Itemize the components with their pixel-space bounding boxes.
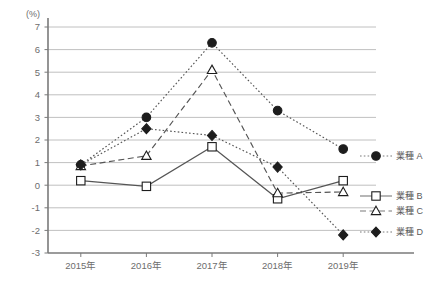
y-tick-label: 0: [35, 180, 40, 191]
y-tick-label: 2: [35, 134, 40, 145]
legend-item-c[interactable]: 業種 C: [360, 205, 424, 216]
data-point: [339, 230, 348, 240]
data-point: [339, 145, 348, 154]
x-tick-label: 2016年: [131, 260, 162, 271]
y-tick-label: -1: [32, 202, 40, 213]
y-axis-ticks: 76543210-1-2-3(%): [26, 9, 48, 258]
x-tick-label: 2019年: [328, 260, 359, 271]
series-b: [77, 143, 348, 203]
data-point: [77, 176, 85, 184]
data-point: [208, 39, 217, 48]
gridlines: [48, 27, 376, 230]
data-point: [208, 143, 216, 151]
series-line: [81, 147, 343, 199]
data-point: [207, 130, 216, 140]
data-point: [142, 113, 151, 122]
axes: [48, 18, 414, 253]
data-point: [273, 106, 282, 115]
legend-marker: [372, 152, 381, 161]
data-point: [142, 124, 151, 134]
legend-item-b[interactable]: 業種 B: [360, 190, 423, 201]
y-axis-unit-label: (%): [26, 9, 40, 19]
legend-label: 業種 B: [396, 190, 423, 201]
x-axis-ticks: 2015年2016年2017年2018年2019年: [65, 253, 359, 271]
data-point: [207, 65, 216, 73]
data-point: [142, 182, 150, 190]
y-tick-label: 3: [35, 112, 40, 123]
legend: 業種 A業種 B業種 C業種 D: [360, 150, 424, 237]
y-tick-label: 7: [35, 21, 40, 32]
x-tick-label: 2017年: [196, 260, 227, 271]
legend-label: 業種 A: [396, 150, 423, 161]
data-point: [339, 187, 348, 195]
y-tick-label: 4: [35, 89, 40, 100]
series-layer: [76, 39, 348, 240]
y-tick-label: 1: [35, 157, 40, 168]
x-tick-label: 2015年: [65, 260, 96, 271]
data-point: [339, 176, 347, 184]
legend-item-a[interactable]: 業種 A: [360, 150, 423, 161]
legend-label: 業種 C: [396, 205, 424, 216]
y-tick-label: 5: [35, 67, 40, 78]
line-chart: 76543210-1-2-3(%)2015年2016年2017年2018年201…: [0, 0, 433, 284]
x-tick-label: 2018年: [262, 260, 293, 271]
y-tick-label: 6: [35, 44, 40, 55]
y-tick-label: -2: [32, 225, 40, 236]
legend-item-d[interactable]: 業種 D: [360, 226, 424, 237]
legend-marker: [372, 192, 380, 200]
chart-canvas: 76543210-1-2-3(%)2015年2016年2017年2018年201…: [0, 0, 433, 284]
legend-label: 業種 D: [396, 226, 424, 237]
legend-marker: [371, 227, 380, 237]
data-point: [273, 162, 282, 172]
series-d: [76, 124, 348, 240]
y-tick-label: -3: [32, 247, 40, 258]
